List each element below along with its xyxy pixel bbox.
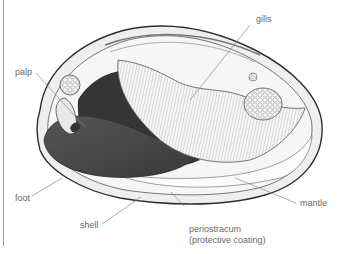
clam-illustration	[0, 0, 339, 254]
small-muscle-scar	[249, 73, 257, 81]
label-periostracum-note: (protective coating)	[189, 235, 266, 246]
label-periostracum: periostracum	[189, 224, 241, 235]
label-shell: shell	[80, 220, 99, 231]
anterior-adductor	[60, 75, 80, 95]
label-mantle: mantle	[300, 198, 327, 209]
label-foot: foot	[15, 193, 30, 204]
label-palp: palp	[15, 67, 32, 78]
label-gills: gills	[256, 14, 272, 25]
posterior-adductor	[244, 88, 282, 120]
